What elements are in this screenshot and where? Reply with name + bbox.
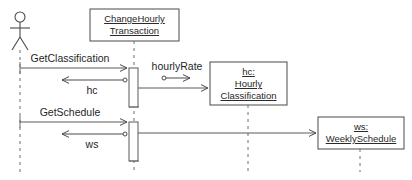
object-box-change-hourly-transaction[interactable]: ChangeHourly Transaction: [90, 9, 179, 41]
message-ws-return[interactable]: ws: [62, 132, 127, 150]
message-label: GetClassification: [31, 52, 110, 64]
actor-figure: [10, 12, 30, 50]
message-get-schedule[interactable]: GetSchedule: [20, 106, 127, 128]
activation-bar-1: [129, 68, 138, 107]
return-origin-dot-icon: [123, 78, 127, 82]
sequence-diagram-canvas: ChangeHourly Transaction hc: Hourly Clas…: [0, 0, 412, 180]
return-label: hc: [86, 84, 97, 96]
return-label: ws: [85, 138, 99, 150]
object-box-hourly-classification[interactable]: hc: Hourly Classification: [210, 62, 287, 105]
sequence-diagram-svg: ChangeHourly Transaction hc: Hourly Clas…: [0, 0, 412, 180]
object-box-line2: WeeklySchedule: [326, 133, 397, 144]
object-box-line1: hc:: [242, 66, 255, 77]
message-label: hourlyRate: [152, 60, 203, 72]
message-origin-dot-icon: [162, 76, 166, 80]
message-hourly-rate[interactable]: hourlyRate: [138, 60, 208, 88]
message-get-classification[interactable]: GetClassification: [20, 52, 127, 74]
object-box-line3: Classification: [221, 90, 277, 101]
object-box-line1: ChangeHourly: [104, 13, 165, 24]
object-box-line2: Transaction: [110, 25, 159, 36]
actor-right-leg: [20, 37, 28, 50]
object-box-weekly-schedule[interactable]: ws: WeeklySchedule: [318, 117, 404, 149]
object-box-line2: Hourly: [235, 78, 263, 89]
message-label: GetSchedule: [40, 106, 101, 118]
actor-left-leg: [12, 37, 20, 50]
activation-bar-2: [129, 122, 138, 161]
return-origin-dot-icon: [123, 132, 127, 136]
message-hc-return[interactable]: hc: [62, 78, 127, 96]
object-box-line1: ws:: [353, 121, 368, 132]
actor-head-icon: [15, 12, 25, 22]
